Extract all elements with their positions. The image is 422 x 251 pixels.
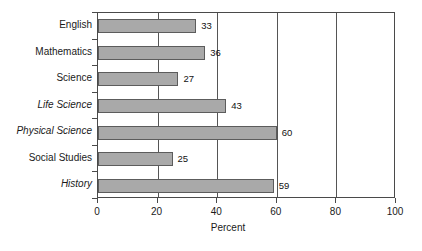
bar-row: 25 (98, 146, 394, 173)
bar-english (98, 19, 196, 33)
x-axis-tick-label-60: 60 (270, 206, 281, 218)
bar-science (98, 72, 178, 86)
bar-value-science: 27 (183, 75, 194, 85)
x-axis-tick-label-20: 20 (151, 206, 162, 218)
bar-value-social-studies: 25 (178, 154, 189, 164)
bar-row: 43 (98, 93, 394, 120)
bar-value-physical-science: 60 (282, 128, 293, 138)
x-axis-tick-80 (335, 198, 336, 203)
bar-row: 60 (98, 119, 394, 146)
y-axis-label-physical-science: Physical Science (16, 118, 92, 145)
y-axis-category-labels: English Mathematics Science Life Science… (0, 12, 92, 198)
x-axis-tick-40 (216, 198, 217, 203)
y-axis-label-english: English (59, 12, 92, 39)
bar-row: 33 (98, 13, 394, 40)
bar-row: 59 (98, 172, 394, 199)
y-axis-label-science: Science (56, 65, 92, 92)
y-axis-label-history: History (61, 171, 92, 198)
bar-value-history: 59 (279, 181, 290, 191)
bar-chart: English Mathematics Science Life Science… (0, 0, 422, 251)
y-axis-label-mathematics: Mathematics (35, 39, 92, 66)
bar-social-studies (98, 152, 173, 166)
bar-history (98, 179, 274, 193)
x-axis-tick-20 (157, 198, 158, 203)
bar-life-science (98, 99, 226, 113)
bar-value-english: 33 (201, 22, 212, 32)
x-axis-tick-label-100: 100 (387, 206, 404, 218)
bar-row: 27 (98, 66, 394, 93)
x-axis-tick-label-0: 0 (94, 206, 100, 218)
plot-area: 33 36 27 43 60 25 (97, 12, 395, 198)
bar-mathematics (98, 46, 205, 60)
x-axis-tick-label-80: 80 (330, 206, 341, 218)
x-axis-title-text: Percent (177, 222, 245, 233)
bar-series: 33 36 27 43 60 25 (98, 13, 394, 197)
x-axis-tick-0 (97, 198, 98, 203)
x-axis-tick-100 (395, 198, 396, 203)
bar-value-mathematics: 36 (210, 48, 221, 58)
y-axis-label-life-science: Life Science (38, 92, 92, 119)
bar-value-life-science: 43 (231, 101, 242, 111)
y-axis-label-social-studies: Social Studies (29, 145, 92, 172)
x-axis-tick-60 (276, 198, 277, 203)
x-axis-title: Percent (0, 222, 422, 233)
bar-row: 36 (98, 40, 394, 67)
bar-physical-science (98, 126, 277, 140)
x-axis-tick-label-40: 40 (211, 206, 222, 218)
